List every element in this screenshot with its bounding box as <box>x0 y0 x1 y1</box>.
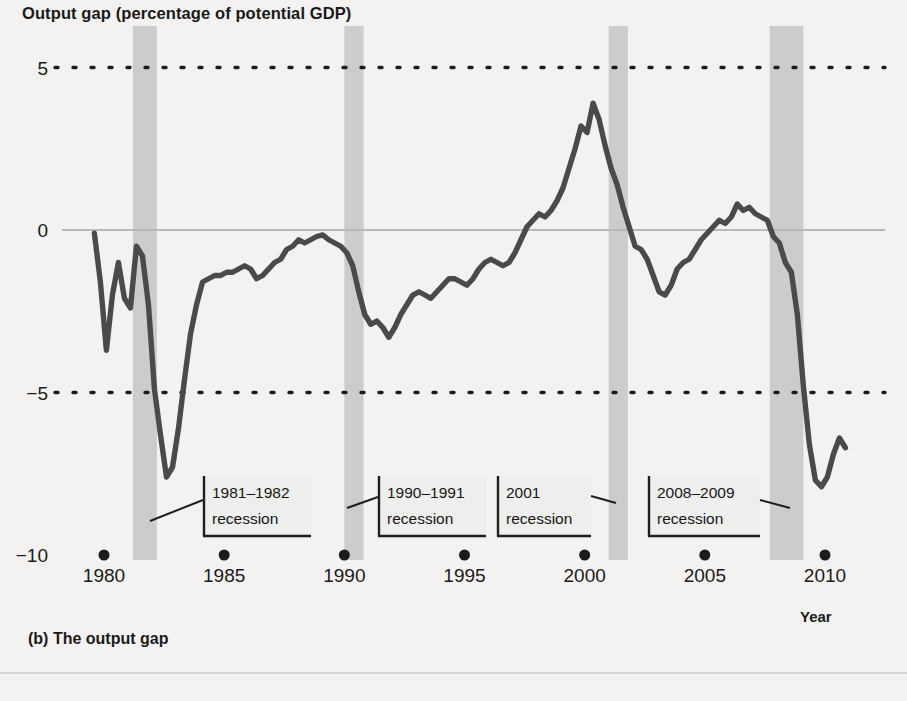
x-tick-dot-0 <box>99 550 110 561</box>
recession-band-4 <box>770 26 804 560</box>
x-tick-label-4: 2000 <box>564 565 606 586</box>
annotation-label-years-3: 2001 <box>506 484 540 501</box>
y-tick-label-1: 0 <box>37 220 48 241</box>
x-tick-label-1: 1985 <box>203 565 245 586</box>
annotation-label-recession-1: recession <box>212 510 278 527</box>
chart-plot-area: 50−5−10 1980198519901995200020052010 198… <box>0 26 907 586</box>
figure-panel: Output gap (percentage of potential GDP)… <box>0 0 907 701</box>
annotation-group: 1981–1982recession1990–1991recession2001… <box>150 476 790 536</box>
annotation-label-years-1: 1981–1982 <box>212 484 290 501</box>
x-tick-dot-3 <box>459 550 470 561</box>
x-tick-label-2: 1990 <box>323 565 365 586</box>
x-tick-dot-4 <box>579 550 590 561</box>
bottom-divider <box>0 672 907 674</box>
x-tick-dot-1 <box>219 550 230 561</box>
annotation-label-recession-3: recession <box>506 510 572 527</box>
annotation-label-recession-2: recession <box>387 510 453 527</box>
annotation-label-recession-4: recession <box>657 510 723 527</box>
output-gap-line-chart: 50−5−10 1980198519901995200020052010 198… <box>0 26 907 586</box>
page-title: Output gap (percentage of potential GDP) <box>22 4 351 23</box>
annotation-label-years-4: 2008–2009 <box>657 484 735 501</box>
x-tick-dot-6 <box>820 550 831 561</box>
annotation-label-years-2: 1990–1991 <box>387 484 465 501</box>
x-tick-label-3: 1995 <box>443 565 485 586</box>
recession-band-3 <box>609 26 628 560</box>
x-axis-title: Year <box>800 608 832 625</box>
y-tick-label-2: −5 <box>26 383 48 404</box>
x-tick-label-6: 2010 <box>804 565 846 586</box>
y-tick-label-3: −10 <box>16 545 48 566</box>
x-tick-dot-5 <box>699 550 710 561</box>
x-tick-label-0: 1980 <box>83 565 125 586</box>
x-tick-label-5: 2005 <box>684 565 726 586</box>
y-tick-label-0: 5 <box>37 58 48 79</box>
figure-caption: (b) The output gap <box>28 630 168 648</box>
x-tick-dot-2 <box>339 550 350 561</box>
